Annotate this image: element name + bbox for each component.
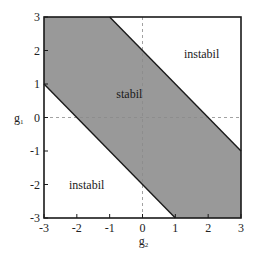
y-axis-label: g1 [14, 111, 24, 126]
y-tick-label: 1 [34, 77, 40, 91]
unstable-lower-region-label: instabil [69, 178, 105, 192]
y-tick-label: 3 [34, 10, 40, 24]
x-tick-label: 0 [140, 221, 146, 235]
y-tick-label: -2 [30, 178, 40, 192]
x-tick-label: 3 [238, 221, 244, 235]
y-tick-label: 0 [34, 111, 40, 125]
x-tick-label: 1 [172, 221, 178, 235]
x-axis-label: g2 [139, 234, 149, 249]
x-tick-label: -3 [39, 221, 49, 235]
unstable-upper-region-label: instabil [184, 47, 220, 61]
y-tick-label: 2 [34, 44, 40, 58]
x-tick-label: -1 [105, 221, 115, 235]
stability-chart: -3-2-10123-3-2-10123g2g1 stabilinstabili… [0, 0, 257, 257]
stable-region-label: stabil [116, 87, 143, 101]
y-tick-label: -1 [30, 144, 40, 158]
x-tick-label: -2 [72, 221, 82, 235]
x-tick-label: 2 [205, 221, 211, 235]
y-tick-label: -3 [30, 211, 40, 225]
